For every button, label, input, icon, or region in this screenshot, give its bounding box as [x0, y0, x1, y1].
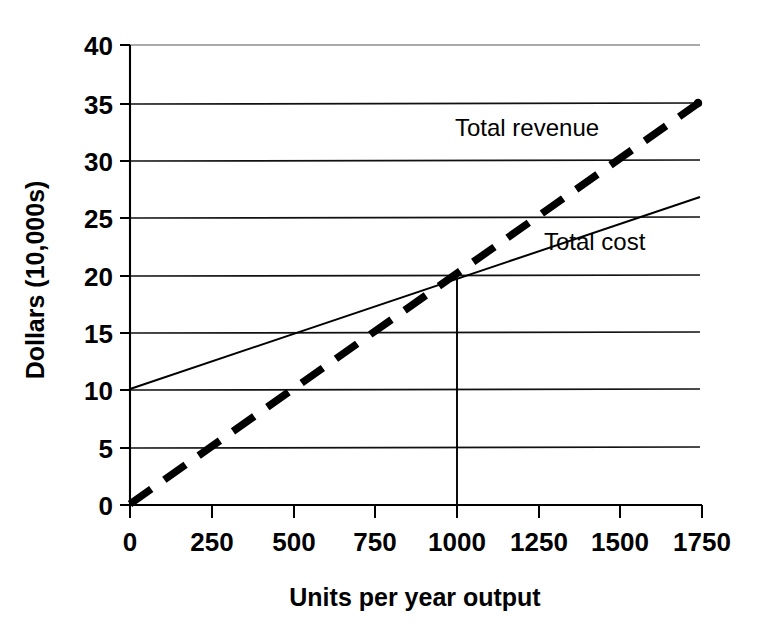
gridline-10 [130, 389, 700, 390]
y-tick-label-40: 40 [84, 31, 113, 61]
gridline-25 [130, 217, 700, 218]
y-tick-label-10: 10 [84, 376, 113, 406]
chart-canvas: 40 35 30 25 20 15 10 5 0 0 250 500 750 1… [0, 0, 766, 628]
gridline-20 [130, 275, 700, 276]
x-tick-label-1000: 1000 [428, 527, 486, 557]
gridline-35 [130, 103, 700, 104]
y-tick-label-15: 15 [84, 319, 113, 349]
x-tick-label-750: 750 [353, 527, 396, 557]
y-tick-label-5: 5 [99, 434, 113, 464]
total-revenue-label: Total revenue [455, 114, 599, 141]
gridline-15 [130, 332, 700, 333]
series-endpoint-total-revenue [694, 99, 702, 107]
x-tick-label-500: 500 [272, 527, 315, 557]
x-tick-label-1500: 1500 [591, 527, 649, 557]
y-tick-label-35: 35 [84, 90, 113, 120]
x-tick-label-250: 250 [190, 527, 233, 557]
break-even-chart: 40 35 30 25 20 15 10 5 0 0 250 500 750 1… [0, 0, 766, 628]
y-tick-label-25: 25 [84, 204, 113, 234]
y-axis-title: Dollars (10,000s) [21, 181, 49, 380]
x-tick-label-0: 0 [123, 527, 137, 557]
x-axis-title: Units per year output [289, 583, 541, 611]
y-tick-label-30: 30 [84, 147, 113, 177]
y-tick-label-20: 20 [84, 262, 113, 292]
x-tick-label-1250: 1250 [510, 527, 568, 557]
y-tick-label-0: 0 [99, 491, 113, 521]
total-cost-label: Total cost [544, 228, 646, 255]
x-tick-label-1750: 1750 [673, 527, 731, 557]
